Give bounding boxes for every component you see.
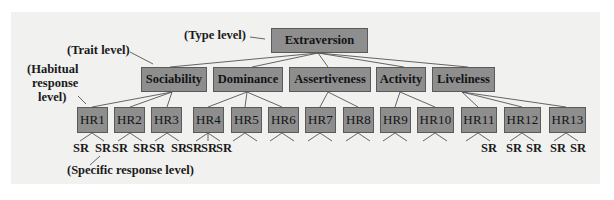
sr-label: SR	[73, 141, 89, 156]
hr-node-12: HR12	[504, 107, 541, 133]
hr-node-3: HR3	[151, 107, 182, 133]
sr-label: SR	[112, 141, 128, 156]
sr-label: SR	[149, 141, 165, 156]
habitual-level-label-line3: level)	[38, 91, 66, 104]
trait-level-label: (Trait level)	[67, 44, 130, 57]
hr-node-9: HR9	[380, 107, 411, 133]
hr-node-5: HR5	[231, 107, 262, 133]
type-level-label: (Type level)	[184, 29, 246, 42]
hr-node-11: HR11	[461, 107, 497, 133]
sr-label: SR	[186, 141, 202, 156]
hr-node-1: HR1	[77, 107, 108, 133]
sr-label: SR	[201, 141, 217, 156]
trait-node-activity: Activity	[376, 67, 426, 92]
sr-label: SR	[570, 141, 586, 156]
sr-label: SR	[171, 141, 187, 156]
sr-label: SR	[550, 141, 566, 156]
habitual-level-label-line2: response	[32, 77, 78, 90]
sr-label: SR	[216, 141, 232, 156]
sr-label: SR	[526, 141, 542, 156]
trait-node-sociability: Sociability	[141, 67, 207, 92]
sr-label: SR	[95, 141, 111, 156]
specific-level-label: (Specific response level)	[67, 164, 194, 177]
sr-label: SR	[481, 141, 497, 156]
hr-node-13: HR13	[549, 107, 586, 133]
sr-label: SR	[506, 141, 522, 156]
habitual-level-label-line1: (Habitual	[27, 63, 78, 76]
hr-node-10: HR10	[417, 107, 454, 133]
hr-node-6: HR6	[268, 107, 299, 133]
trait-node-liveliness: Liveliness	[432, 67, 495, 92]
hr-node-8: HR8	[343, 107, 374, 133]
trait-node-dominance: Dominance	[213, 67, 283, 92]
sr-label: SR	[133, 141, 149, 156]
trait-node-assertiveness: Assertiveness	[289, 67, 371, 92]
hr-node-2: HR2	[114, 107, 145, 133]
hr-node-4: HR4	[193, 107, 224, 133]
type-node-extraversion: Extraversion	[271, 28, 368, 53]
hr-node-7: HR7	[305, 107, 336, 133]
